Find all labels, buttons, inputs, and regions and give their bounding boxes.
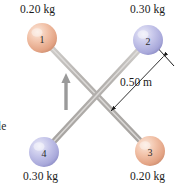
- rotation-direction-arrow: [61, 73, 70, 110]
- ball-3: [135, 136, 165, 166]
- ball-4: [29, 137, 59, 167]
- physics-figure-four-ball-cross: 1 2 3 4 0.20 kg 0.30 kg 0.20 kg 0.30 kg …: [0, 0, 188, 187]
- ball-3-mass-label: 0.20 kg: [130, 170, 165, 182]
- ball-4-mass-label: 0.30 kg: [23, 170, 58, 182]
- cropped-edge-text: le: [0, 120, 6, 132]
- ball-1: [27, 23, 57, 53]
- ball-2: [133, 25, 163, 55]
- ball-2-mass-label: 0.30 kg: [130, 3, 165, 15]
- figure-canvas: [0, 0, 188, 187]
- dimension-label-050m: 0.50 m: [120, 76, 152, 88]
- ball-1-mass-label: 0.20 kg: [20, 3, 55, 15]
